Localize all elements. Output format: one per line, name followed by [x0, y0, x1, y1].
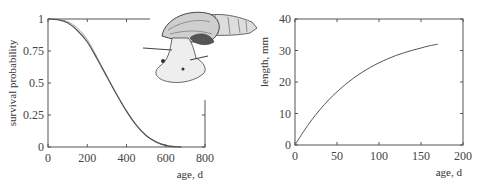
length-growth-line [295, 44, 438, 145]
snail-illustration [143, 12, 257, 100]
length-axes-frame [295, 19, 463, 145]
length-ytick-label: 20 [279, 75, 291, 89]
length-chart: 010203040 050100150200 length, mm age, d [258, 12, 472, 178]
length-xtick-label: 0 [292, 149, 298, 163]
figure: 00.250.50.751 0200400600800 survival pro… [0, 0, 480, 187]
length-ylabel: length, mm [258, 37, 270, 88]
length-xtick-label: 200 [454, 149, 472, 163]
survival-ytick-label: 0.5 [29, 76, 44, 90]
length-ytick-label: 10 [279, 107, 291, 121]
survival-ytick-label: 0.75 [23, 44, 44, 58]
length-ytick-label: 30 [279, 44, 291, 58]
length-xtick-label: 100 [370, 149, 388, 163]
survival-xtick-label: 200 [78, 151, 96, 165]
survival-ytick-label: 0 [38, 140, 44, 154]
survival-xtick-label: 800 [196, 151, 214, 165]
length-xtick-label: 150 [412, 149, 430, 163]
survival-ytick-label: 1 [38, 12, 44, 26]
length-xlabel: age, d [436, 166, 463, 178]
length-ytick-label: 0 [285, 138, 291, 152]
survival-ylabel: survival probability [6, 39, 18, 126]
survival-xtick-label: 0 [45, 151, 51, 165]
survival-xlabel: age, d [177, 168, 204, 180]
survival-xtick-label: 600 [157, 151, 175, 165]
length-ytick-label: 40 [279, 12, 291, 26]
survival-xtick-label: 400 [118, 151, 136, 165]
survival-ytick-label: 0.25 [23, 108, 44, 122]
length-xtick-label: 50 [331, 149, 343, 163]
